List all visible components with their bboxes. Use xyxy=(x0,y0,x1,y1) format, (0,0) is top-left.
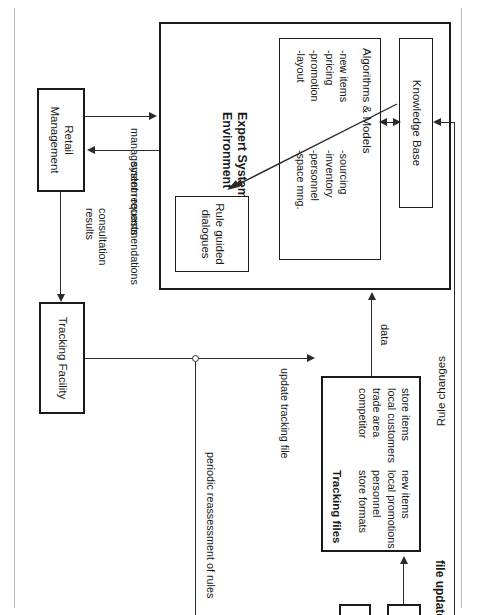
tracking-files-column-right-text: new items local promotions personnel sto… xyxy=(357,470,412,549)
system-recommendations-arrowhead xyxy=(87,146,95,154)
tracking-files-column-left-text: store items local customers trade area c… xyxy=(357,388,412,463)
system-recommendations-label: system recommendations xyxy=(128,162,141,285)
knowledge-base-box[interactable]: Knowledge Base xyxy=(399,38,433,208)
file-updates-edge-arrowhead xyxy=(400,556,408,564)
data-edge-line xyxy=(371,300,372,376)
maintenance-update-facility-box[interactable]: Maintenance/Update Facility xyxy=(387,604,421,615)
rule-changes-edge-label: Rule changes xyxy=(435,356,449,426)
diagram-canvas: Expert System Environment Knowledge Base… xyxy=(0,0,477,615)
knowledge-base-label: Knowledge Base xyxy=(409,80,423,166)
tracking-files-title: Tracking files xyxy=(329,470,343,544)
tracking-facility-label: Tracking Facility xyxy=(55,317,69,400)
file-updates-edge-line xyxy=(403,564,404,604)
rule-changes-line-drop xyxy=(439,122,455,123)
algorithms-models-column-left-text: -new items -pricing -promotion -layout xyxy=(295,50,350,102)
consultation-results-label: consultation results xyxy=(84,208,109,266)
periodic-reassessment-label: periodic reassessment of rules xyxy=(204,452,217,598)
system-recommendations-line xyxy=(93,150,159,151)
tracking-files-column-left: store items local customers trade area c… xyxy=(356,388,413,463)
retail-management-label: Retail Management xyxy=(47,106,74,173)
periodic-reassessment-line-horizontal xyxy=(195,362,196,615)
update-tracking-file-arrowhead xyxy=(307,354,315,362)
consultation-results-arrowhead xyxy=(57,294,65,302)
management-requests-arrowhead xyxy=(149,112,157,120)
rule-changes-line-top xyxy=(454,122,455,615)
retail-experts-box[interactable]: Retail Experts xyxy=(339,604,371,615)
tracking-files-column-right: new items local promotions personnel sto… xyxy=(356,470,413,549)
algorithms-models-column-left: -new items -pricing -promotion -layout xyxy=(294,50,351,102)
consultation-results-line xyxy=(60,192,61,294)
kb-to-dialogues-arrow xyxy=(218,100,403,210)
management-requests-line xyxy=(85,116,151,117)
junction-node xyxy=(192,355,199,362)
retail-management-box[interactable]: Retail Management xyxy=(37,88,85,192)
data-edge-label: data xyxy=(378,324,391,345)
diagram-page: Expert System Environment Knowledge Base… xyxy=(0,0,477,615)
tracking-facility-box[interactable]: Tracking Facility xyxy=(39,302,85,414)
data-edge-arrowhead xyxy=(368,292,376,300)
rule-guided-dialogues-label: Rule guided dialogues xyxy=(198,203,225,264)
rule-changes-arrowhead xyxy=(433,118,441,126)
update-tracking-file-label: update tracking file xyxy=(278,368,291,459)
file-updates-edge-label: file updates xyxy=(433,560,447,615)
